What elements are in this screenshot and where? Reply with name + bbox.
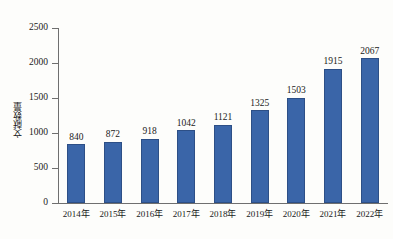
x-axis-label: 2020年 — [278, 207, 315, 220]
bar[interactable] — [361, 58, 379, 203]
bar-slot: 840 — [58, 28, 95, 203]
bar[interactable] — [67, 144, 85, 203]
y-axis-tick — [52, 203, 58, 204]
bar[interactable] — [141, 139, 159, 203]
bar-slot: 1121 — [205, 28, 242, 203]
y-axis-tick-label: 500 — [0, 163, 48, 173]
bar[interactable] — [324, 69, 342, 203]
bar-slot: 2067 — [351, 28, 388, 203]
bar-value-label: 1121 — [214, 113, 233, 123]
x-axis-label: 2014年 — [58, 207, 95, 220]
bar-value-label: 1503 — [287, 86, 306, 96]
x-axis-label: 2018年 — [205, 207, 242, 220]
bar[interactable] — [104, 142, 122, 203]
y-axis-tick-label: 2500 — [0, 23, 48, 33]
x-axis-label: 2015年 — [95, 207, 132, 220]
bar-value-label: 872 — [106, 130, 120, 140]
bar-slot: 1915 — [315, 28, 352, 203]
y-axis-tick-label: 0 — [0, 198, 48, 208]
x-axis-labels: 2014年2015年2016年2017年2018年2019年2020年2021年… — [58, 207, 388, 227]
x-axis-line — [58, 203, 388, 204]
bar-slot: 1325 — [241, 28, 278, 203]
y-axis-tick-label: 1000 — [0, 128, 48, 138]
bar[interactable] — [251, 110, 269, 203]
bar[interactable] — [287, 98, 305, 203]
y-axis-tick-label: 2000 — [0, 58, 48, 68]
bar-slot: 918 — [131, 28, 168, 203]
bar-series: 840872918104211211325150319152067 — [58, 28, 388, 203]
x-axis-label: 2016年 — [131, 207, 168, 220]
bar-slot: 872 — [95, 28, 132, 203]
bar[interactable] — [214, 125, 232, 203]
x-axis-label: 2019年 — [241, 207, 278, 220]
x-axis-label: 2021年 — [315, 207, 352, 220]
bar-value-label: 1325 — [250, 99, 269, 109]
bar-value-label: 1042 — [177, 119, 196, 129]
bar-chart: 文献数量 05001000150020002500 84087291810421… — [0, 0, 393, 239]
x-axis-label: 2017年 — [168, 207, 205, 220]
y-axis-tick-label: 1500 — [0, 93, 48, 103]
x-axis-label: 2022年 — [351, 207, 388, 220]
bar[interactable] — [177, 130, 195, 203]
bar-value-label: 840 — [69, 133, 83, 143]
bar-value-label: 918 — [143, 127, 157, 137]
bar-slot: 1503 — [278, 28, 315, 203]
bar-value-label: 1915 — [323, 57, 342, 67]
bar-slot: 1042 — [168, 28, 205, 203]
bar-value-label: 2067 — [360, 47, 379, 57]
